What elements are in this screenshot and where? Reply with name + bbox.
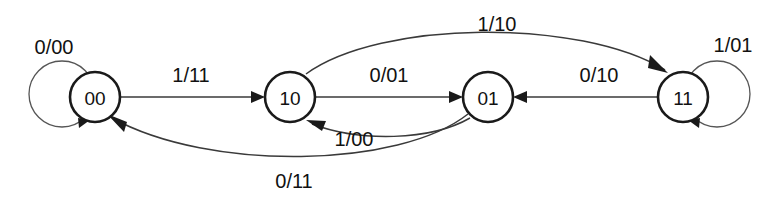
state-label-11: 11 [673, 88, 693, 109]
state-label-10: 10 [279, 88, 300, 109]
edge-label-00-10: 1/11 [172, 64, 209, 86]
transition-01-to-10: 1/00 [306, 118, 470, 150]
arrowhead-10-11 [648, 55, 668, 73]
state-node-01[interactable]: 01 [463, 72, 513, 122]
arrowhead-01-10 [306, 120, 326, 131]
state-node-00[interactable]: 00 [70, 72, 120, 122]
state-node-10[interactable]: 10 [265, 72, 315, 122]
arrowhead-10-01 [449, 91, 463, 103]
transition-11-to-01: 0/10 [513, 64, 658, 103]
edge-label-00-self: 0/00 [35, 36, 74, 58]
edge-label-01-10: 1/00 [335, 128, 374, 150]
state-label-01: 01 [477, 88, 498, 109]
edge-label-11-01: 0/10 [580, 64, 619, 86]
edge-label-11-self: 1/01 [714, 34, 753, 56]
edge-label-10-11: 1/10 [478, 13, 517, 35]
edge-label-01-00: 0/11 [275, 170, 312, 192]
arrowhead-11-01 [513, 91, 527, 103]
transition-10-to-01: 0/01 [315, 64, 463, 103]
state-node-11[interactable]: 11 [658, 72, 708, 122]
transition-01-to-00: 0/11 [107, 114, 468, 192]
state-transition-diagram: 0/00 1/11 0/01 0/10 1/01 [0, 0, 776, 198]
arrowhead-00-10 [251, 91, 265, 103]
transition-00-to-10: 1/11 [120, 64, 265, 103]
edge-label-10-01: 0/01 [370, 64, 409, 86]
state-diagram-container: 0/00 1/11 0/01 0/10 1/01 [0, 0, 776, 198]
state-label-00: 00 [84, 88, 105, 109]
